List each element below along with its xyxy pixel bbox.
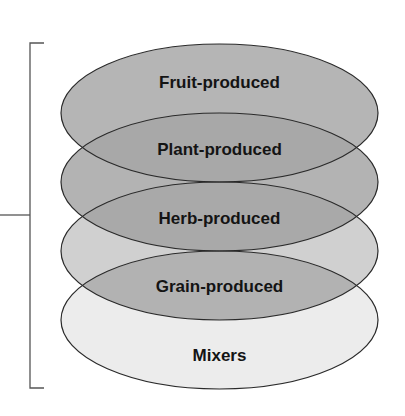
ellipse-stack-diagram: Fruit-produced Plant-produced Herb-produ…: [0, 0, 405, 416]
label-herb-produced: Herb-produced: [159, 209, 281, 228]
label-plant-produced: Plant-produced: [157, 140, 282, 159]
label-fruit-produced: Fruit-produced: [159, 73, 280, 92]
label-grain-produced: Grain-produced: [156, 277, 284, 296]
grouping-bracket: [0, 43, 44, 388]
label-mixers: Mixers: [193, 346, 247, 365]
